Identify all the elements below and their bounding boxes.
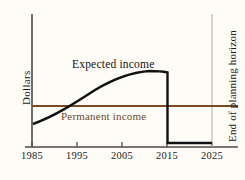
- end-of-planning-horizon-label: End of planning horizon: [226, 30, 238, 142]
- permanent-income-label: Permanent income: [61, 110, 146, 122]
- chart-figure: 1985 1995 2005 2015 2025 Dollars End of …: [0, 0, 245, 180]
- x-tick-label-2005: 2005: [111, 150, 133, 161]
- x-tick-label-2015: 2015: [156, 150, 178, 161]
- x-tick-label-1995: 1995: [66, 150, 88, 161]
- expected-income-label: Expected income: [72, 58, 155, 70]
- x-tick-label-1985: 1985: [21, 150, 43, 161]
- y-axis-title: Dollars: [20, 71, 32, 105]
- x-tick-label-2025: 2025: [201, 150, 223, 161]
